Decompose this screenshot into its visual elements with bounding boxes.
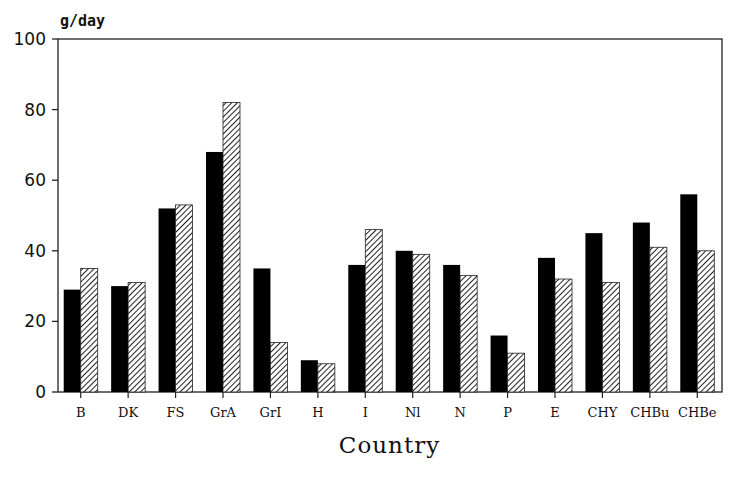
bar-hatched	[555, 279, 572, 392]
y-tick-label: 0	[35, 382, 46, 402]
bar-hatched	[602, 283, 619, 392]
y-tick-label: 40	[24, 241, 46, 261]
bar-hatched	[413, 254, 430, 392]
x-tick-label: B	[76, 405, 86, 420]
bar-solid	[206, 152, 223, 392]
bar-solid	[491, 336, 508, 392]
bar-solid	[348, 265, 365, 392]
x-axis-title: Country	[0, 432, 739, 458]
x-tick-label: P	[503, 405, 512, 420]
bar-solid	[111, 286, 128, 392]
x-tick-label: Nl	[405, 405, 421, 420]
y-tick-label: 100	[14, 29, 46, 49]
bar-solid	[159, 208, 176, 392]
bar-solid	[396, 251, 413, 392]
x-tick-label: CHBe	[678, 405, 717, 420]
bar-chart: 020406080100 BDKFSGrAGrIHINlNPECHYCHBuCH…	[0, 0, 739, 487]
bar-hatched	[223, 103, 240, 392]
x-axis-ticks: BDKFSGrAGrIHINlNPECHYCHBuCHBe	[76, 392, 717, 420]
x-tick-label: H	[312, 405, 323, 420]
bar-solid	[301, 360, 318, 392]
bar-hatched	[81, 268, 98, 392]
bar-solid	[680, 194, 697, 392]
bar-hatched	[318, 364, 335, 392]
bar-hatched	[508, 353, 525, 392]
x-tick-label: GrI	[260, 405, 282, 420]
x-tick-label: I	[363, 405, 368, 420]
bar-hatched	[697, 251, 714, 392]
bar-solid	[64, 290, 81, 392]
bar-hatched	[365, 230, 382, 392]
bar-solid	[253, 268, 270, 392]
bar-hatched	[460, 276, 477, 392]
bar-hatched	[270, 343, 287, 392]
y-tick-label: 60	[24, 170, 46, 190]
bar-hatched	[128, 283, 145, 392]
x-tick-label: DK	[118, 405, 138, 420]
x-tick-label: FS	[167, 405, 185, 420]
y-tick-label: 80	[24, 100, 46, 120]
bar-solid	[538, 258, 555, 392]
y-tick-label: 20	[24, 311, 46, 331]
bar-solid	[443, 265, 460, 392]
bar-hatched	[650, 247, 667, 392]
bar-hatched	[176, 205, 193, 392]
x-tick-label: N	[454, 405, 465, 420]
bar-solid	[585, 233, 602, 392]
plot-frame	[58, 39, 722, 392]
x-tick-label: E	[550, 405, 560, 420]
x-tick-label: GrA	[210, 405, 237, 420]
x-tick-label: CHBu	[630, 405, 669, 420]
bar-solid	[633, 223, 650, 392]
x-tick-label: CHY	[587, 405, 617, 420]
bar-series	[64, 103, 715, 392]
